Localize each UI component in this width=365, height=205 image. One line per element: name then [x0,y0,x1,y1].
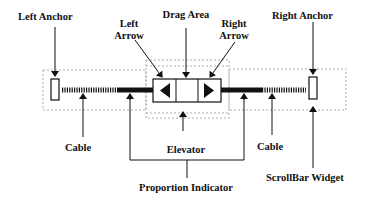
drag-area-label: Drag Area [163,9,210,21]
left-anchor-label: Left Anchor [18,11,73,23]
proportion-indicator-label: Proportion Indicator [139,182,233,194]
right-anchor-label: Right Anchor [272,10,333,22]
right-cable-label: Cable [257,141,283,153]
right-anchor [309,77,317,99]
elevator-label: Elevator [167,144,206,156]
left-arrow-label-line1: Left [120,18,139,30]
right-arrow-label-line1: Right [221,18,246,30]
left-cable-label: Cable [65,142,91,154]
left-anchor [51,79,59,100]
scrollbar-diagram: Left Anchor Left Arrow Drag Area Right A… [0,0,365,205]
scrollbar-widget-label: ScrollBar Widget [266,172,344,184]
right-arrow-label-line2: Arrow [219,30,249,42]
left-arrow-label-line2: Arrow [114,30,144,42]
